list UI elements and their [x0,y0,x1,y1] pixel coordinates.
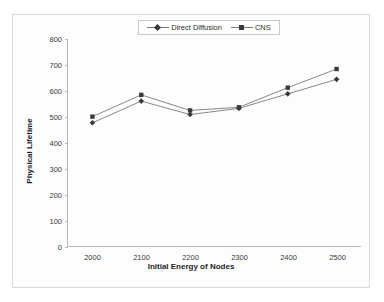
data-point-marker [237,105,241,109]
plot-area: 0100200300400500600700800 20002100220023… [67,39,361,247]
square-marker-icon [231,23,253,32]
x-axis-label: Initial Energy of Nodes [13,262,369,271]
x-tick-label: 2500 [329,246,346,262]
data-point-marker [285,91,291,97]
diamond-marker-icon [147,23,169,32]
x-tick-label: 2100 [133,246,150,262]
chart-legend: Direct Diffusion CNS [138,20,280,35]
legend-item-direct-diffusion[interactable]: Direct Diffusion [147,23,222,32]
series-line-direct-diffusion [92,79,336,122]
data-point-marker [90,114,94,118]
x-tick-label: 2200 [182,246,199,262]
series-line-cns [92,69,336,117]
x-tick-label: 2300 [231,246,248,262]
data-point-marker [286,85,290,89]
x-tick-label: 2000 [84,246,101,262]
legend-label-cns: CNS [255,24,271,32]
data-point-marker [138,98,144,104]
series-lines [68,39,361,246]
y-tick-mark [65,247,68,248]
legend-item-cns[interactable]: CNS [231,23,271,32]
data-point-marker [334,77,340,83]
legend-label-direct-diffusion: Direct Diffusion [171,24,222,32]
data-point-marker [90,120,96,126]
x-tick-label: 2400 [280,246,297,262]
data-point-marker [334,67,338,71]
data-point-marker [188,108,192,112]
chart-figure: Direct Diffusion CNS Physical Lifetime 0… [12,14,370,288]
data-point-marker [139,93,143,97]
y-axis-label: Physical Lifetime [25,118,34,183]
